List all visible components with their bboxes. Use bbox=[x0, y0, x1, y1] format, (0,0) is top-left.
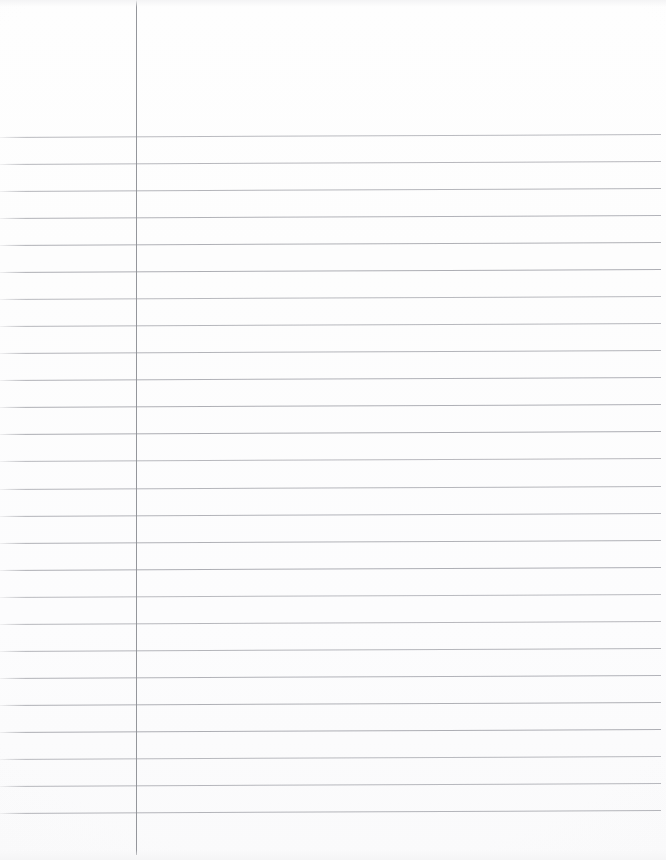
notebook-page bbox=[0, 0, 666, 860]
left-margin-area bbox=[0, 0, 136, 860]
writing-area[interactable] bbox=[137, 0, 666, 860]
